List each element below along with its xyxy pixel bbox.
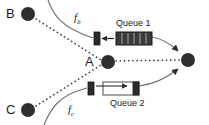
flow-label-fc-subscript: c: [71, 110, 74, 118]
flow-label-fb: fb: [74, 12, 81, 26]
flow-label-fc: fc: [68, 104, 74, 118]
queueing-network-diagram: B A C fb fc Queue 1 Queue 2: [0, 0, 209, 125]
node-A[interactable]: [101, 55, 115, 69]
edge-a-to-destination: [116, 60, 181, 61]
flow-curve-fc: [44, 88, 87, 125]
queue2-label: Queue 2: [110, 99, 145, 108]
queue1-label: Queue 1: [116, 19, 151, 28]
node-label-B: B: [6, 7, 15, 20]
queue2-tail-bar: [133, 82, 139, 95]
flow-label-fb-subscript: b: [77, 18, 81, 26]
node-B[interactable]: [21, 7, 35, 21]
flow-curve-fb: [48, 0, 93, 38]
node-C[interactable]: [21, 103, 35, 117]
queue2-group: [88, 82, 139, 95]
diagram-canvas: [0, 0, 209, 125]
queue1-group: [94, 32, 152, 45]
queue2-server-bar: [88, 82, 94, 95]
queue1-server-bar: [94, 32, 100, 45]
node-label-A: A: [85, 55, 94, 68]
network-nodes: [21, 7, 195, 117]
arrow-queue1-to-destination: [152, 37, 178, 51]
node-destination[interactable]: [181, 53, 195, 67]
arrow-queue2-to-destination: [139, 69, 178, 86]
node-label-C: C: [6, 103, 15, 116]
